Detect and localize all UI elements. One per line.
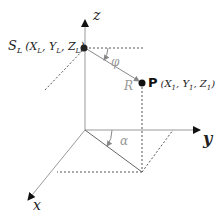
coordinate-diagram: z y x SL(XL, YL, ZL) P(X1, Y1, Z1) R φ α [0, 0, 220, 217]
target-point [139, 80, 146, 87]
z-axis-label: z [92, 7, 101, 23]
alpha-angle-arc [107, 130, 112, 146]
r-vector-label: R [123, 79, 133, 93]
phi-angle-label: φ [111, 55, 120, 69]
source-label: SL(XL, YL, ZL) [8, 38, 85, 55]
diagram-canvas: z y x SL(XL, YL, ZL) P(X1, Y1, Z1) R φ α [0, 0, 220, 217]
projection-to-y-line [142, 130, 173, 172]
target-label: P(X1, Y1, Z1) [148, 75, 215, 92]
alpha-angle-label: α [120, 134, 128, 148]
x-axis-label: x [33, 197, 41, 213]
construction-lines [45, 48, 173, 172]
x-axis [28, 130, 85, 200]
phi-angle-arc [104, 48, 108, 60]
y-axis-label: y [202, 129, 214, 148]
ground-projection-line [85, 130, 142, 172]
